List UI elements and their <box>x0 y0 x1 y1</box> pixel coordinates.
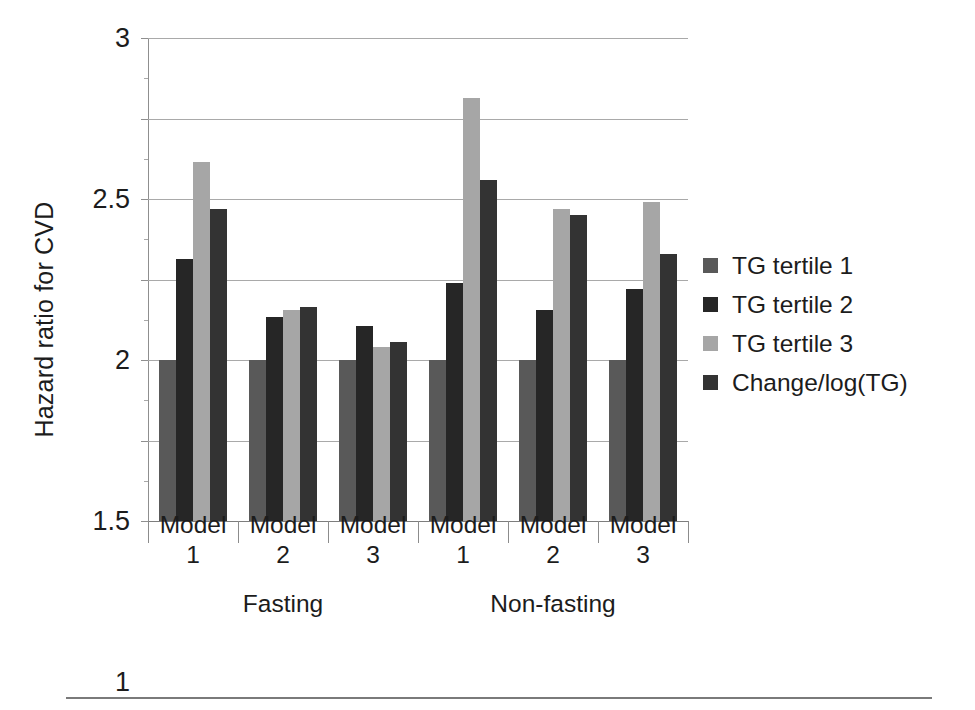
legend-swatch-icon <box>703 375 718 390</box>
bar <box>193 162 210 521</box>
legend-label: TG tertile 3 <box>732 330 853 358</box>
bar <box>249 360 266 521</box>
bar <box>266 317 283 521</box>
gridline <box>148 199 688 200</box>
category-separator <box>688 521 689 543</box>
plot-area: 00.511.522.53 <box>148 38 688 521</box>
y-tick-minor <box>144 481 148 482</box>
bar <box>356 326 373 521</box>
category-label: Model1 <box>418 510 508 570</box>
category-label-line: Model <box>328 510 418 540</box>
category-label-line: 2 <box>508 540 598 570</box>
bar <box>463 98 480 521</box>
category-label-line: 2 <box>238 540 328 570</box>
category-label-line: 1 <box>418 540 508 570</box>
bar <box>609 360 626 521</box>
legend-label: Change/log(TG) <box>732 369 908 397</box>
legend-label: TG tertile 1 <box>732 252 853 280</box>
y-tick-minor <box>144 78 148 79</box>
bar <box>660 254 677 521</box>
bar <box>176 259 193 521</box>
bar <box>390 342 407 521</box>
bar <box>300 307 317 521</box>
y-tick-mark: 1 <box>141 360 148 361</box>
bar <box>210 209 227 521</box>
legend-swatch-icon <box>703 297 718 312</box>
bar <box>570 215 587 521</box>
bar <box>480 180 497 521</box>
legend-item: TG tertile 3 <box>703 324 963 363</box>
category-label-line: Model <box>598 510 688 540</box>
y-tick-mark: 0 <box>141 521 148 522</box>
category-label: Model3 <box>598 510 688 570</box>
category-label-line: Model <box>148 510 238 540</box>
y-tick-mark: 0.5 <box>141 441 148 442</box>
gridline <box>148 119 688 120</box>
bar <box>339 360 356 521</box>
group-label: Non-fasting <box>418 590 688 618</box>
legend-item: TG tertile 1 <box>703 246 963 285</box>
category-label-line: 3 <box>598 540 688 570</box>
chart-figure: Hazard ratio for CVD 00.511.522.53 Model… <box>0 0 975 710</box>
category-label-line: 3 <box>328 540 418 570</box>
y-tick-label: 1.5 <box>92 506 130 537</box>
bar <box>429 360 446 521</box>
bar <box>159 360 176 521</box>
gridline <box>148 360 688 361</box>
bar <box>283 310 300 521</box>
y-tick-label: 2 <box>115 345 130 376</box>
y-tick-mark: 3 <box>141 38 148 39</box>
bar <box>643 202 660 521</box>
bar <box>373 347 390 521</box>
legend-item: Change/log(TG) <box>703 363 963 402</box>
gridline <box>148 441 688 442</box>
category-label: Model3 <box>328 510 418 570</box>
y-tick-mark: 2 <box>141 199 148 200</box>
y-tick-minor <box>144 159 148 160</box>
bar <box>626 289 643 521</box>
category-label: Model1 <box>148 510 238 570</box>
gridline <box>148 280 688 281</box>
category-label-line: Model <box>508 510 598 540</box>
y-tick-label: 1 <box>115 667 130 698</box>
category-label-line: Model <box>238 510 328 540</box>
gridline <box>148 38 688 39</box>
chart-legend: TG tertile 1TG tertile 2TG tertile 3Chan… <box>703 246 963 402</box>
bottom-divider <box>66 697 932 699</box>
y-tick-minor <box>144 320 148 321</box>
y-tick-label: 3 <box>115 23 130 54</box>
legend-swatch-icon <box>703 336 718 351</box>
bar <box>446 283 463 521</box>
y-axis-title: Hazard ratio for CVD <box>30 170 59 470</box>
group-label: Fasting <box>148 590 418 618</box>
category-label-line: 1 <box>148 540 238 570</box>
y-tick-mark: 2.5 <box>141 119 148 120</box>
category-label-line: Model <box>418 510 508 540</box>
y-tick-label: 2.5 <box>92 184 130 215</box>
y-tick-minor <box>144 400 148 401</box>
bar <box>536 310 553 521</box>
category-label: Model2 <box>238 510 328 570</box>
bar <box>519 360 536 521</box>
bar <box>553 209 570 521</box>
category-label: Model2 <box>508 510 598 570</box>
legend-swatch-icon <box>703 258 718 273</box>
legend-label: TG tertile 2 <box>732 291 853 319</box>
legend-item: TG tertile 2 <box>703 285 963 324</box>
y-tick-mark: 1.5 <box>141 280 148 281</box>
y-tick-minor <box>144 239 148 240</box>
